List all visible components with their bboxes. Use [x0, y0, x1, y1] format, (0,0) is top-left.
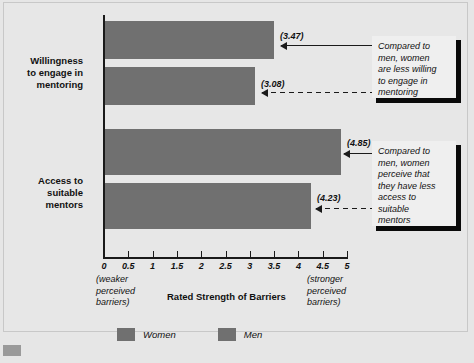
- x-tick: [128, 251, 129, 259]
- x-tick-label: 3: [247, 261, 252, 271]
- x-tick-label: 4.5: [316, 261, 329, 271]
- x-tick-label: 1: [150, 261, 155, 271]
- x-tick: [104, 251, 105, 259]
- annotation-arrow-dashed-access: [316, 208, 372, 209]
- arrowhead-icon: [261, 89, 268, 97]
- bar-women-access: [105, 129, 341, 175]
- annotation-arrow-solid-access: [344, 153, 372, 154]
- category-label-access: Access to suitable mentors: [38, 175, 83, 211]
- y-axis-line: [103, 15, 105, 258]
- value-label-women-willingness: (3.47): [280, 31, 304, 41]
- bar-women-willingness: [105, 21, 274, 59]
- legend-swatch-icon: [218, 328, 236, 341]
- annotation-callout-access: Compared to men, women perceive that the…: [372, 141, 456, 226]
- x-tick: [177, 251, 178, 259]
- callout-shadow: [456, 40, 461, 102]
- bar-men-access: [105, 183, 311, 229]
- arrowhead-icon: [343, 150, 350, 158]
- legend-item-women: Women: [117, 328, 176, 341]
- legend-swatch-icon: [117, 328, 135, 341]
- x-tick: [201, 251, 202, 259]
- x-tick-label: 3.5: [268, 261, 281, 271]
- value-label-women-access: (4.85): [347, 138, 371, 148]
- annotation-arrow-solid-willingness: [281, 45, 372, 46]
- x-tick-label: 4: [296, 261, 301, 271]
- value-label-men-willingness: (3.08): [261, 79, 285, 89]
- annotation-callout-willingness: Compared to men, women are less willing …: [372, 36, 456, 98]
- corner-marker: [3, 345, 21, 356]
- callout-shadow: [376, 226, 461, 231]
- x-tick: [323, 251, 324, 259]
- legend-item-men: Men: [218, 328, 262, 341]
- x-tick: [250, 251, 251, 259]
- legend-label: Men: [244, 329, 262, 340]
- x-tick: [274, 251, 275, 259]
- callout-shadow: [456, 145, 461, 230]
- x-axis-title: Rated Strength of Barriers: [167, 291, 286, 302]
- category-label-willingness: Willingness to engage in mentoring: [27, 55, 83, 91]
- x-tick-label: 0: [101, 261, 106, 271]
- arrowhead-icon: [315, 205, 322, 213]
- x-tick-label: 0.5: [122, 261, 135, 271]
- axis-end-label-stronger: (stronger perceived barriers): [307, 274, 346, 309]
- x-tick-label: 5: [344, 261, 349, 271]
- arrowhead-icon: [280, 42, 287, 50]
- x-tick-label: 2.5: [219, 261, 232, 271]
- x-tick-label: 1.5: [171, 261, 184, 271]
- value-label-men-access: (4.23): [317, 193, 341, 203]
- x-tick: [153, 251, 154, 259]
- callout-shadow: [376, 98, 461, 103]
- bar-men-willingness: [105, 67, 255, 105]
- chart-frame: 0 0.5 1 1.5 2 2.5 3 3.5 4 4.5 5 (3.47) (…: [3, 2, 468, 332]
- x-tick: [347, 251, 348, 259]
- figure-container: 0 0.5 1 1.5 2 2.5 3 3.5 4 4.5 5 (3.47) (…: [0, 0, 474, 363]
- x-tick-label: 2: [199, 261, 204, 271]
- x-tick: [226, 251, 227, 259]
- annotation-arrow-dashed-willingness: [262, 92, 372, 93]
- x-tick: [298, 251, 299, 259]
- chart-legend: Women Men: [117, 328, 262, 341]
- axis-end-label-weaker: (weaker perceived barriers): [96, 274, 135, 309]
- legend-label: Women: [143, 329, 176, 340]
